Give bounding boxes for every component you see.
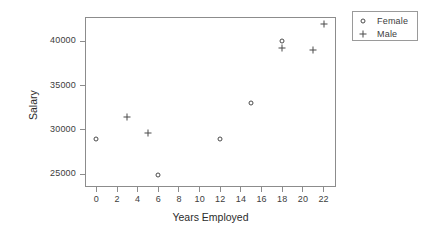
y-tick-mark <box>80 41 85 42</box>
data-point-circle <box>249 101 254 106</box>
legend-entry-male[interactable]: Male <box>357 29 397 39</box>
legend-label: Male <box>377 29 397 39</box>
y-tick-mark <box>80 174 85 175</box>
y-tick-label: 25000 <box>34 168 76 178</box>
data-point-plus <box>360 31 367 38</box>
x-tick-mark <box>117 187 118 192</box>
legend-circle-icon <box>357 16 369 26</box>
plot-area <box>85 17 336 187</box>
y-tick-label: 40000 <box>34 35 76 45</box>
x-tick-mark <box>323 187 324 192</box>
x-tick-mark <box>158 187 159 192</box>
x-tick-mark <box>240 187 241 192</box>
x-tick-mark <box>178 187 179 192</box>
x-tick-mark <box>220 187 221 192</box>
data-point-plus <box>310 47 317 54</box>
data-point-circle <box>218 136 223 141</box>
legend: FemaleMale <box>352 11 418 41</box>
data-point-plus <box>320 20 327 27</box>
data-point-circle <box>94 136 99 141</box>
data-point-plus <box>145 130 152 137</box>
x-tick-mark <box>282 187 283 192</box>
x-tick-mark <box>261 187 262 192</box>
data-point-plus <box>124 113 131 120</box>
legend-label: Female <box>377 16 408 26</box>
x-tick-mark <box>302 187 303 192</box>
x-axis-title: Years Employed <box>85 211 336 223</box>
x-tick-mark <box>199 187 200 192</box>
x-tick-label: 22 <box>304 194 344 204</box>
data-point-plus <box>279 45 286 52</box>
data-point-circle <box>280 39 285 44</box>
y-axis-title: Salary <box>27 90 39 120</box>
legend-plus-icon <box>357 29 369 39</box>
y-tick-label: 35000 <box>34 80 76 90</box>
y-tick-label: 30000 <box>34 124 76 134</box>
data-point-circle <box>361 19 366 24</box>
legend-entry-female[interactable]: Female <box>357 16 408 26</box>
y-tick-mark <box>80 85 85 86</box>
data-point-circle <box>156 173 161 178</box>
x-tick-mark <box>96 187 97 192</box>
x-tick-mark <box>137 187 138 192</box>
y-tick-mark <box>80 129 85 130</box>
scatter-plot-figure: 0246810121416182022 25000300003500040000… <box>0 0 424 235</box>
